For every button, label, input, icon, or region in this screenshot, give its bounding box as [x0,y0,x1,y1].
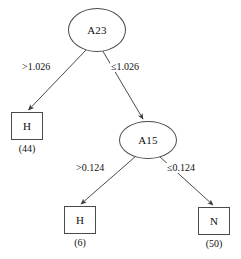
edge-label-root-left: >1.026 [21,62,51,72]
node-internal-a15-label: A15 [138,135,158,146]
node-leaf-right-n-label: N [210,216,218,227]
node-root-a23: A23 [68,8,126,52]
edge-root-to-internal-a15 [101,48,143,119]
node-root-a23-label: A23 [87,25,107,36]
decision-tree-diagram: A23 >1.026 ≤1.026 H (44) A15 >0.124 ≤0.1… [0,0,241,259]
node-leaf-mid-h-label: H [76,215,84,226]
edge-label-a15-left: >0.124 [75,163,105,173]
edge-label-root-right: ≤1.026 [110,62,140,72]
node-leaf-right-n: N [198,207,230,235]
edge-label-a15-right: ≤0.124 [166,163,196,173]
node-leaf-mid-h-count: (6) [64,238,96,248]
node-internal-a15: A15 [119,121,177,159]
node-leaf-left-h-label: H [23,121,31,132]
edge-root-to-leaf-left [29,50,87,110]
node-leaf-right-n-count: (50) [198,239,230,249]
node-leaf-left-h-count: (44) [11,144,43,154]
node-leaf-mid-h: H [64,206,96,234]
node-leaf-left-h: H [11,112,43,140]
